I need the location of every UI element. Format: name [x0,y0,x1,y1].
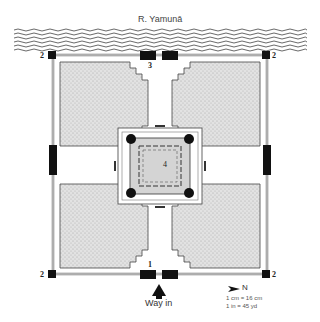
way-in-arrow-icon [152,284,166,296]
river-yamuna [14,27,307,51]
river-gate-left [140,51,156,60]
river-gate-right [162,51,178,60]
corner-tower-nw [48,51,56,59]
minaret-sw [126,188,136,198]
entrance-gate-left [140,270,156,279]
pavilion-east [263,145,271,175]
label-corner-ne: 2 [272,51,276,60]
label-river-gate: 3 [148,61,152,70]
scale-cm: 1 cm = 16 cm [226,295,262,301]
label-corner-se: 2 [272,270,276,279]
way-in-label: Way in [145,298,172,308]
pavilion-west [49,145,57,175]
minaret-ne [184,134,194,144]
minaret-se [184,188,194,198]
scale-in: 1 in = 45 yd [226,303,257,309]
label-tomb: 4 [163,160,167,169]
north-label: N [242,283,248,292]
label-corner-sw: 2 [40,270,44,279]
north-arrow-icon [228,286,240,292]
label-entrance-gate: 1 [148,260,152,269]
entrance-gate-right [162,270,178,279]
river-label: R. Yamunā [138,14,182,24]
corner-tower-ne [262,51,270,59]
corner-tower-sw [48,270,56,278]
central-platform [114,125,206,208]
label-corner-nw: 2 [40,51,44,60]
minaret-nw [126,134,136,144]
corner-tower-se [262,270,270,278]
